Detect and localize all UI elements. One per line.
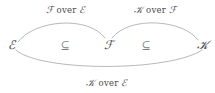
- edge-label-k-over-f: 𝒦 over ℱ: [134, 5, 176, 15]
- edge-label-k-over-e-script-2: ℰ: [121, 77, 127, 88]
- edge-label-k-over-f-script-1: 𝒦: [134, 4, 143, 15]
- edge-label-k-over-f-plain: over: [146, 5, 166, 15]
- inclusion-diagram: ℰ ℱ 𝒦 ⊆ ⊆ ℱ over ℰ 𝒦 over ℱ 𝒦 over ℰ: [0, 0, 215, 93]
- node-k: 𝒦: [197, 39, 208, 51]
- edge-label-k-over-e-script-1: 𝒦: [86, 77, 95, 88]
- arc-k-over-e: [16, 50, 202, 67]
- subset-symbol-f-k: ⊆: [141, 40, 150, 51]
- node-f: ℱ: [104, 39, 113, 51]
- edge-label-k-over-e: 𝒦 over ℰ: [86, 78, 127, 88]
- edge-label-k-over-e-plain: over: [99, 78, 119, 88]
- edge-label-f-over-e-plain: over: [57, 5, 77, 15]
- edge-label-k-over-f-script-2: ℱ: [169, 4, 176, 15]
- edge-label-f-over-e-script-2: ℰ: [79, 4, 85, 15]
- arc-k-over-f: [112, 23, 198, 40]
- node-e: ℰ: [8, 39, 15, 51]
- subset-symbol-e-f: ⊆: [60, 40, 69, 51]
- edge-label-f-over-e-script-1: ℱ: [46, 4, 53, 15]
- edge-label-f-over-e: ℱ over ℰ: [46, 5, 85, 15]
